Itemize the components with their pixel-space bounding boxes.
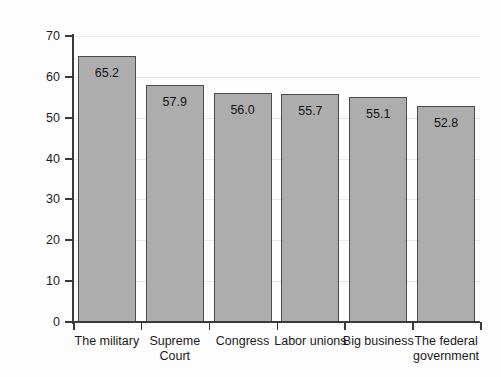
category-label: The federalgovernment <box>406 334 486 364</box>
y-tick-label: 20 <box>0 233 60 247</box>
y-tick-label: 40 <box>0 152 60 166</box>
bar-value-label: 52.8 <box>418 116 474 130</box>
y-tick-mark <box>65 158 73 160</box>
y-tick-mark <box>65 321 73 323</box>
category-label-line: government <box>406 349 486 364</box>
y-tick-mark <box>65 76 73 78</box>
bar: 55.7 <box>281 94 339 322</box>
bar: 56.0 <box>214 93 272 322</box>
category-label-line: The federal <box>406 334 486 349</box>
bar-value-label: 56.0 <box>215 103 271 117</box>
y-tick-mark <box>65 280 73 282</box>
x-tick-mark <box>412 322 414 330</box>
x-tick-mark <box>73 322 75 330</box>
y-tick-mark <box>65 35 73 37</box>
bar-value-label: 57.9 <box>147 95 203 109</box>
x-tick-mark <box>344 322 346 330</box>
category-label-line: Court <box>135 349 215 364</box>
bar-value-label: 65.2 <box>79 66 135 80</box>
y-tick-label: 0 <box>0 315 60 329</box>
y-tick-label: 50 <box>0 111 60 125</box>
y-tick-mark <box>65 117 73 119</box>
bar: 57.9 <box>146 85 204 322</box>
bar: 65.2 <box>78 56 136 322</box>
x-tick-mark <box>141 322 143 330</box>
y-tick-mark <box>65 198 73 200</box>
y-tick-label: 70 <box>0 29 60 43</box>
bar-value-label: 55.1 <box>350 107 406 121</box>
plot-area: 65.257.956.055.755.152.8 <box>73 36 480 322</box>
y-tick-label: 10 <box>0 274 60 288</box>
y-tick-label: 30 <box>0 192 60 206</box>
x-tick-mark <box>209 322 211 330</box>
bar: 52.8 <box>417 106 475 322</box>
bar: 55.1 <box>349 97 407 322</box>
x-tick-mark <box>277 322 279 330</box>
bar-value-label: 55.7 <box>282 104 338 118</box>
y-tick-label: 60 <box>0 70 60 84</box>
gridline <box>73 36 480 37</box>
x-tick-mark <box>480 322 482 330</box>
y-tick-mark <box>65 239 73 241</box>
bar-chart-screenshot: 65.257.956.055.755.152.8 Percent 7060504… <box>0 0 501 377</box>
